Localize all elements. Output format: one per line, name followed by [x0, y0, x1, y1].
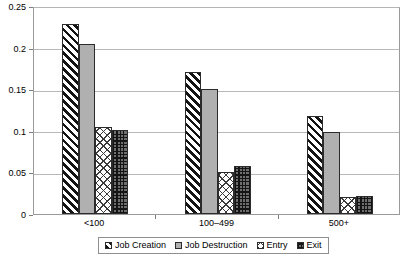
bar-chart: 00.050.10.150.20.25 <100100–499500+ Job … — [0, 0, 406, 264]
legend-label: Job Creation — [115, 241, 166, 250]
bar — [112, 130, 129, 214]
chart-legend: Job CreationJob DestructionEntryExit — [98, 237, 329, 254]
y-tick-label: 0 — [21, 211, 26, 220]
legend-label: Exit — [307, 241, 322, 250]
y-tick-label: 0.25 — [8, 3, 26, 12]
legend-swatch-icon — [297, 242, 304, 249]
y-tick-label: 0.2 — [13, 45, 26, 54]
y-axis: 00.050.10.150.20.25 — [0, 0, 33, 264]
legend-item: Job Creation — [105, 241, 166, 250]
legend-swatch-icon — [105, 242, 112, 249]
bar — [234, 166, 251, 214]
legend-item: Exit — [297, 241, 322, 250]
bar — [62, 24, 79, 214]
bar — [79, 44, 96, 214]
legend-item: Job Destruction — [175, 241, 248, 250]
legend-swatch-icon — [175, 242, 182, 249]
bar — [356, 196, 373, 214]
y-tick-label: 0.15 — [8, 86, 26, 95]
x-tick-label: <100 — [84, 219, 104, 228]
bar — [307, 116, 324, 214]
legend-label: Entry — [267, 241, 288, 250]
y-tick-mark — [29, 215, 33, 216]
bar — [323, 132, 340, 214]
legend-swatch-icon — [257, 242, 264, 249]
x-tick-mark — [278, 215, 279, 219]
y-tick-label: 0.05 — [8, 169, 26, 178]
plot-area — [33, 7, 400, 215]
bar — [185, 72, 202, 214]
x-axis: <100100–499500+ — [33, 219, 400, 233]
bar — [201, 89, 218, 214]
x-tick-label: 100–499 — [199, 219, 234, 228]
y-tick-label: 0.1 — [13, 128, 26, 137]
x-tick-label: 500+ — [329, 219, 349, 228]
x-tick-mark — [155, 215, 156, 219]
bar — [340, 197, 357, 214]
legend-label: Job Destruction — [185, 241, 248, 250]
bar — [95, 127, 112, 214]
bar — [218, 172, 235, 214]
legend-item: Entry — [257, 241, 288, 250]
